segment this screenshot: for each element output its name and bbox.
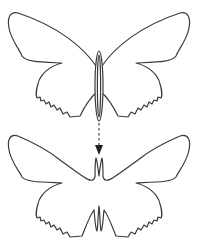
arrow-down-icon xyxy=(95,145,103,155)
diagram-canvas: Butterfly outline with closed body Butte… xyxy=(0,0,197,243)
butterfly-top xyxy=(8,13,189,121)
butterfly-diagram xyxy=(0,0,197,243)
top-left-wing xyxy=(8,13,97,117)
transform-arrow xyxy=(95,123,103,155)
top-right-wing xyxy=(101,13,190,117)
top-body-inner xyxy=(97,55,100,117)
